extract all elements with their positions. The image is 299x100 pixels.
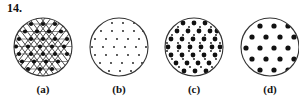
panel-b [89, 17, 149, 77]
lattice-dot [257, 23, 262, 28]
lattice-dot [166, 50, 168, 52]
panel-c [164, 17, 224, 77]
lattice-dot [116, 54, 118, 56]
lattice-dot [199, 26, 201, 28]
lattice-dot [218, 45, 223, 50]
lattice-dot [99, 62, 101, 64]
lattice-dot [59, 29, 63, 33]
lattice-dot [130, 70, 132, 72]
lattice-dot [121, 62, 123, 64]
lattice-dot [29, 52, 33, 56]
lattice-dot [171, 58, 173, 60]
lattice-dot [138, 54, 140, 56]
lattice-dot [17, 37, 21, 41]
lattice-dot [132, 62, 134, 64]
lattice-dot [53, 22, 57, 26]
lattice-dot [20, 59, 24, 63]
lattice-dot [191, 53, 196, 58]
lattice-dot [180, 37, 185, 42]
lattice-dot [188, 42, 190, 44]
lattice-dot [192, 21, 197, 26]
lattice-dot [204, 58, 206, 60]
panel-d-diagram [240, 17, 299, 77]
lattice-dot [188, 26, 190, 28]
lattice-dot [219, 50, 221, 52]
lattice-dot [211, 66, 213, 68]
panel-c-label: (c) [164, 83, 224, 96]
lattice-dot [189, 66, 191, 68]
lattice-dot [177, 42, 179, 44]
lattice-dot [138, 38, 140, 40]
lattice-dot [263, 56, 268, 61]
lattice-dot [29, 22, 33, 26]
lattice-dot [271, 45, 276, 50]
lattice-dot [111, 22, 113, 24]
lattice-dot [94, 54, 96, 56]
lattice-dot [50, 44, 54, 48]
lattice-dot [47, 29, 51, 33]
lattice-dot [169, 37, 174, 42]
lattice-dot [53, 52, 57, 56]
lattice-dot [188, 50, 190, 52]
lattice-dot [35, 29, 39, 33]
panel-a [13, 17, 73, 77]
lattice-dot [263, 34, 268, 39]
lattice-dot [208, 29, 213, 34]
panel-b-dots [91, 22, 147, 72]
lattice-dot [94, 38, 96, 40]
lattice-dot [32, 59, 36, 63]
lattice-dot [178, 66, 180, 68]
lattice-dot [111, 30, 113, 32]
lattice-dot [29, 37, 33, 41]
lattice-dot [38, 67, 42, 71]
lattice-dot [56, 59, 60, 63]
lattice-dot [166, 42, 168, 44]
panel-d [240, 17, 299, 77]
lattice-dot [249, 34, 254, 39]
lattice-dot [210, 42, 212, 44]
lattice-dot [41, 22, 45, 26]
lattice-dot [177, 50, 179, 52]
lattice-dot [135, 46, 137, 48]
lattice-dot [145, 46, 147, 48]
lattice-dot [17, 52, 21, 56]
lattice-dot [197, 29, 202, 34]
panel-d-label: (d) [240, 83, 299, 96]
lattice-dot [193, 58, 195, 60]
lattice-dot [62, 44, 66, 48]
lattice-dot [204, 34, 206, 36]
panel-a-diagram [13, 17, 73, 77]
lattice-dot [243, 45, 248, 50]
lattice-dot [291, 34, 296, 39]
lattice-dot [119, 70, 121, 72]
lattice-dot [177, 26, 179, 28]
lattice-dot [102, 46, 104, 48]
lattice-dot [169, 53, 174, 58]
lattice-dot [213, 37, 218, 42]
lattice-dot [124, 46, 126, 48]
lattice-dot [44, 59, 48, 63]
lattice-dot [199, 42, 201, 44]
figure-number: 14. [7, 0, 22, 16]
lattice-dot [271, 67, 276, 72]
lattice-dot [277, 56, 282, 61]
lattice-dot [41, 37, 45, 41]
lattice-dot [113, 46, 115, 48]
lattice-dot [202, 53, 207, 58]
lattice-dot [127, 54, 129, 56]
lattice-dot [200, 66, 202, 68]
lattice-dot [65, 52, 69, 56]
lattice-dot [210, 45, 215, 50]
lattice-dot [174, 61, 179, 66]
lattice-dot [91, 46, 93, 48]
lattice-dot [210, 50, 212, 52]
lattice-dot [182, 58, 184, 60]
lattice-dot [215, 58, 217, 60]
lattice-dot [133, 30, 135, 32]
lattice-dot [249, 56, 254, 61]
lattice-dot [26, 44, 30, 48]
panel-c-diagram [164, 17, 224, 77]
lattice-dot [105, 38, 107, 40]
lattice-dot [186, 29, 191, 34]
lattice-dot [185, 61, 190, 66]
